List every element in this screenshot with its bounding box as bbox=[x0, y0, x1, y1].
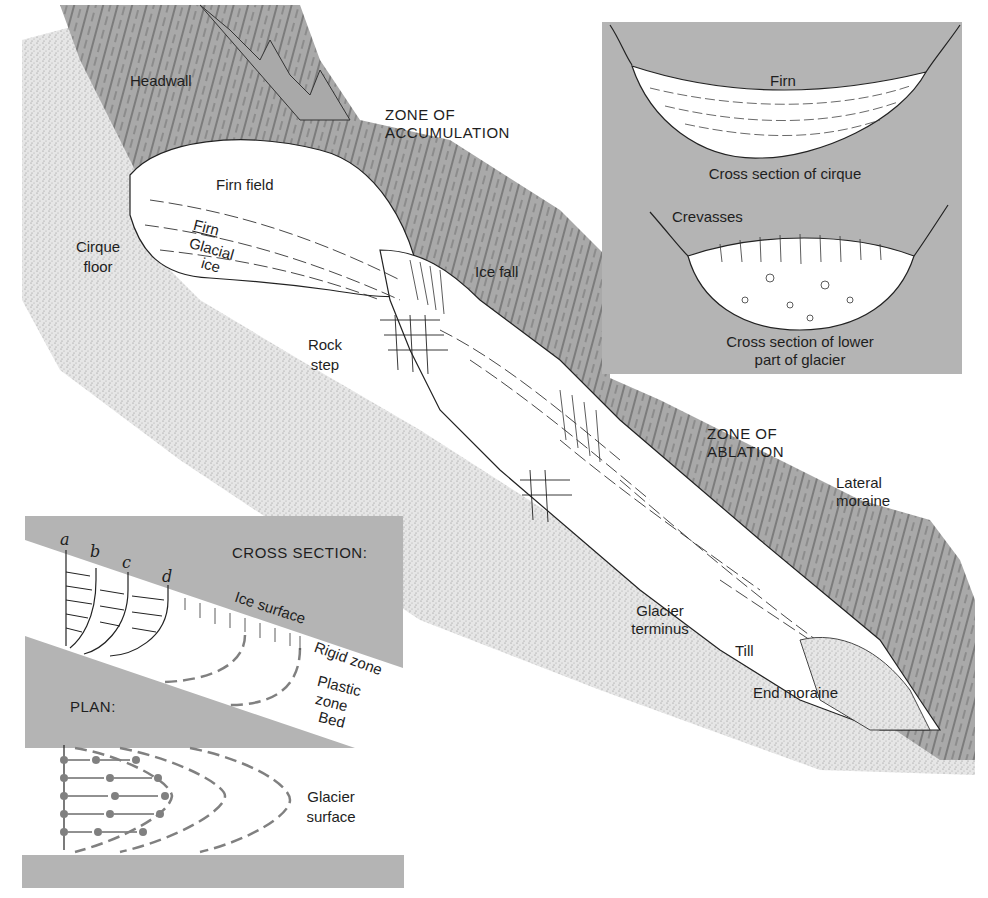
label-glacier-terminus-2: terminus bbox=[625, 620, 695, 637]
label-profile-c: c bbox=[122, 554, 131, 571]
label-profile-b: b bbox=[90, 543, 100, 560]
label-cirque-floor-1: Cirque bbox=[68, 238, 128, 255]
label-glacier-terminus-1: Glacier bbox=[625, 602, 695, 619]
glacier-diagram: Headwall ZONE OF ACCUMULATION Firn field… bbox=[0, 0, 988, 898]
label-cirque-caption: Cross section of cirque bbox=[660, 165, 910, 182]
label-zone-accumulation-2: ACCUMULATION bbox=[385, 124, 510, 141]
label-headwall: Headwall bbox=[130, 72, 192, 89]
label-till: Till bbox=[735, 642, 754, 659]
label-firn-field: Firn field bbox=[216, 176, 274, 193]
label-rock-step-1: Rock bbox=[300, 336, 350, 353]
label-zone-ablation-1: ZONE OF bbox=[707, 425, 777, 442]
label-glacier-surface-2: surface bbox=[296, 808, 366, 825]
label-lateral-moraine-1: Lateral bbox=[836, 474, 882, 491]
label-plan-title: PLAN: bbox=[70, 698, 116, 715]
label-profile-a: a bbox=[60, 531, 70, 548]
label-lower-caption-2: part of glacier bbox=[680, 351, 920, 368]
label-lower-caption-1: Cross section of lower bbox=[680, 333, 920, 350]
label-glacier-surface-1: Glacier bbox=[296, 788, 366, 805]
label-inset-firn: Firn bbox=[770, 72, 796, 89]
plan-bottom-band bbox=[22, 855, 404, 888]
label-rock-step-2: step bbox=[300, 356, 350, 373]
cross-section-bed-band bbox=[25, 636, 355, 748]
label-zone-accumulation-1: ZONE OF bbox=[385, 106, 455, 123]
label-cross-section-title: CROSS SECTION: bbox=[232, 544, 367, 561]
label-profile-d: d bbox=[162, 568, 172, 585]
label-crevasses: Crevasses bbox=[672, 208, 743, 225]
label-ice-fall: Ice fall bbox=[475, 263, 518, 280]
plan-parabolas bbox=[75, 748, 290, 852]
cross-section-sky-band bbox=[25, 516, 403, 668]
label-zone-ablation-2: ABLATION bbox=[707, 443, 784, 460]
label-cirque-floor-2: floor bbox=[68, 258, 128, 275]
label-lateral-moraine-2: moraine bbox=[836, 492, 890, 509]
label-end-moraine: End moraine bbox=[753, 684, 838, 701]
